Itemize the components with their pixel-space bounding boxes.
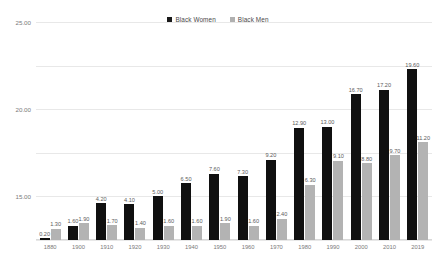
x-axis-tick-label: 2000: [347, 244, 375, 250]
bar-group: 1.601.90: [64, 22, 92, 240]
bar-value-label: 9.10: [333, 154, 344, 160]
bar-group: 4.201.70: [93, 22, 121, 240]
x-axis-tick-label: 2019: [404, 244, 432, 250]
bar-black-men: 1.90: [220, 223, 230, 240]
bar-group: 13.009.10: [319, 22, 347, 240]
bar-value-label: 1.60: [192, 219, 203, 225]
x-axis-tick-label: 1990: [319, 244, 347, 250]
bar-black-women: 19.60: [407, 69, 417, 240]
bar-group: 9.202.40: [262, 22, 290, 240]
bar-black-women: 4.10: [124, 204, 134, 240]
bar-value-label: 9.20: [265, 153, 276, 159]
bar-black-women: 12.90: [294, 128, 304, 240]
x-axis-tick-label: 1970: [262, 244, 290, 250]
bar-value-label: 1.60: [163, 219, 174, 225]
bar-value-label: 1.70: [107, 219, 118, 225]
bar-value-label: 19.60: [405, 63, 419, 69]
bar-value-label: 1.90: [220, 217, 231, 223]
bar-group: 6.501.60: [177, 22, 205, 240]
bar-value-label: 1.60: [67, 219, 78, 225]
bar-value-label: 7.60: [209, 167, 220, 173]
bar-chart: Black Women Black Men 0.005.0010.0015.00…: [0, 0, 436, 263]
bar-value-label: 17.20: [377, 83, 391, 89]
x-axis-tick-label: 1980: [291, 244, 319, 250]
bar-black-men: 1.40: [135, 228, 145, 240]
bar-black-men: 1.90: [79, 223, 89, 240]
bar-value-label: 5.00: [152, 190, 163, 196]
plot-area: 0.005.0010.0015.0020.0025.00 0.201.301.6…: [36, 22, 432, 240]
y-axis-tick-label: 25.00: [16, 19, 31, 26]
bar-black-men: 1.60: [192, 226, 202, 240]
bar-black-men: 2.40: [277, 219, 287, 240]
bar-black-women: 16.70: [351, 94, 361, 240]
x-axis-labels: 1880190019101920193019401950196019701980…: [36, 244, 432, 250]
bar-black-men: 11.20: [418, 142, 428, 240]
bar-value-label: 0.20: [39, 232, 50, 238]
bar-value-label: 4.10: [124, 198, 135, 204]
x-axis-tick-label: 1950: [206, 244, 234, 250]
bar-black-men: 1.60: [164, 226, 174, 240]
bar-groups: 0.201.301.601.904.201.704.101.405.001.60…: [36, 22, 432, 240]
gridline: 0.00: [36, 240, 432, 241]
legend-swatch-icon-black-men: [230, 17, 235, 22]
x-axis-tick-label: 1940: [177, 244, 205, 250]
x-axis-tick-label: 2010: [375, 244, 403, 250]
bar-black-men: 8.80: [362, 163, 372, 240]
bar-value-label: 13.00: [320, 120, 334, 126]
x-axis-tick-label: 1920: [121, 244, 149, 250]
bar-value-label: 2.40: [276, 212, 287, 218]
bar-black-women: 4.20: [96, 203, 106, 240]
bar-value-label: 16.70: [349, 88, 363, 94]
bar-value-label: 8.80: [361, 157, 372, 163]
bar-value-label: 6.30: [305, 178, 316, 184]
bar-value-label: 12.90: [292, 121, 306, 127]
bar-black-women: 13.00: [322, 127, 332, 240]
x-axis-tick-label: 1900: [64, 244, 92, 250]
bar-group: 19.6011.20: [404, 22, 432, 240]
bar-group: 0.201.30: [36, 22, 64, 240]
bar-value-label: 4.20: [96, 197, 107, 203]
y-axis-tick-label: 15.00: [16, 193, 31, 200]
bar-black-women: 9.20: [266, 160, 276, 240]
bar-black-women: 6.50: [181, 183, 191, 240]
legend-swatch-icon-black-women: [167, 17, 172, 22]
bar-group: 17.209.70: [375, 22, 403, 240]
bar-black-women: 7.60: [209, 174, 219, 240]
bar-group: 7.301.60: [234, 22, 262, 240]
x-axis-tick-label: 1880: [36, 244, 64, 250]
bar-value-label: 1.90: [78, 217, 89, 223]
bar-black-men: 1.60: [249, 226, 259, 240]
y-axis-tick-label: 20.00: [16, 106, 31, 113]
x-axis-tick-label: 1930: [149, 244, 177, 250]
bar-value-label: 6.50: [181, 177, 192, 183]
bar-black-women: 0.20: [40, 238, 50, 240]
bar-black-men: 1.30: [51, 229, 61, 240]
bar-group: 5.001.60: [149, 22, 177, 240]
bar-value-label: 1.40: [135, 221, 146, 227]
bar-black-women: 7.30: [238, 176, 248, 240]
bar-value-label: 7.30: [237, 170, 248, 176]
x-axis-tick-label: 1960: [234, 244, 262, 250]
bar-black-women: 17.20: [379, 90, 389, 240]
bar-group: 4.101.40: [121, 22, 149, 240]
bar-black-women: 5.00: [153, 196, 163, 240]
bar-group: 12.906.30: [291, 22, 319, 240]
bar-black-women: 1.60: [68, 226, 78, 240]
x-axis-tick-label: 1910: [93, 244, 121, 250]
bar-value-label: 9.70: [390, 149, 401, 155]
bar-value-label: 1.30: [50, 222, 61, 228]
bar-value-label: 11.20: [417, 136, 431, 142]
bar-black-men: 6.30: [305, 185, 315, 240]
bar-group: 7.601.90: [206, 22, 234, 240]
bar-black-men: 9.10: [333, 161, 343, 240]
bar-black-men: 1.70: [107, 225, 117, 240]
bar-group: 16.708.80: [347, 22, 375, 240]
bar-black-men: 9.70: [390, 155, 400, 240]
bar-value-label: 1.60: [248, 219, 259, 225]
